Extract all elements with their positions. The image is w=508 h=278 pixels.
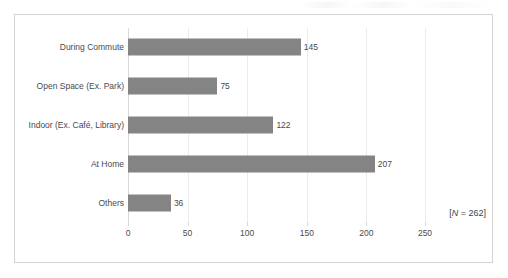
- sample-size-value: 262: [468, 208, 483, 218]
- x-tick-label-0: 0: [126, 228, 131, 238]
- tick-mark-50: [188, 222, 189, 226]
- bar-at-home: [128, 155, 375, 172]
- category-label-others: Others: [20, 198, 124, 208]
- bar-value-indoor: 122: [273, 120, 290, 130]
- category-label-during-commute: During Commute: [20, 42, 124, 52]
- tick-mark-200: [366, 222, 367, 226]
- bar-row: 75: [128, 67, 426, 106]
- tick-mark-150: [307, 222, 308, 226]
- category-axis-labels: During Commute Open Space (Ex. Park) Ind…: [20, 28, 124, 222]
- x-tick-label-150: 150: [300, 228, 314, 238]
- bar-value-open-space: 75: [217, 81, 229, 91]
- bar-value-at-home: 207: [375, 159, 392, 169]
- category-label-indoor: Indoor (Ex. Café, Library): [20, 120, 124, 130]
- bar-indoor: [128, 116, 273, 133]
- tick-mark-250: [425, 222, 426, 226]
- sample-size-equals: =: [458, 208, 468, 218]
- bar-value-others: 36: [171, 198, 183, 208]
- x-tick-label-200: 200: [359, 228, 373, 238]
- bar-row: 36: [128, 183, 426, 222]
- tick-mark-0: [128, 222, 129, 226]
- bar-open-space: [128, 78, 217, 95]
- bar-during-commute: [128, 39, 301, 56]
- bar-row: 122: [128, 106, 426, 145]
- sample-size-annotation: [N = 262]: [449, 208, 486, 218]
- x-tick-label-100: 100: [240, 228, 254, 238]
- tick-mark-100: [247, 222, 248, 226]
- bar-others: [128, 194, 171, 211]
- category-label-at-home: At Home: [20, 159, 124, 169]
- bar-chart-figure: During Commute Open Space (Ex. Park) Ind…: [0, 0, 508, 278]
- bar-series: 145 75 122 207 36: [128, 28, 426, 222]
- x-axis-ticks: [128, 222, 426, 227]
- category-label-open-space: Open Space (Ex. Park): [20, 81, 124, 91]
- bar-row: 145: [128, 28, 426, 67]
- sample-size-bracket-close: ]: [483, 208, 486, 218]
- bar-row: 207: [128, 144, 426, 183]
- bar-value-during-commute: 145: [301, 42, 318, 52]
- x-tick-label-250: 250: [418, 228, 432, 238]
- x-axis-tick-labels: 0 50 100 150 200 250: [128, 228, 426, 242]
- x-tick-label-50: 50: [183, 228, 192, 238]
- scan-artifact: [300, 2, 490, 8]
